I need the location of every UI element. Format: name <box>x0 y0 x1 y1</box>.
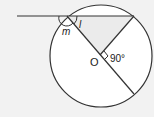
label-center-o: O <box>90 56 99 68</box>
geometry-diagram: m l O 90° <box>0 0 154 117</box>
label-m: m <box>62 26 70 37</box>
label-90-degrees: 90° <box>110 53 125 64</box>
